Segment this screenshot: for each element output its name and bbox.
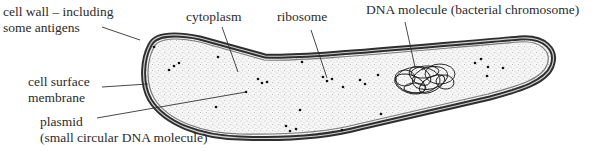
dna-label: DNA molecule (bacterial chromosome) bbox=[366, 2, 579, 18]
cell-surface-membrane-label: cell surface membrane bbox=[28, 74, 90, 106]
plasmid-label-line2: (small circular DNA molecule) bbox=[40, 130, 208, 146]
membrane-leader bbox=[102, 84, 148, 87]
cytoplasm-label: cytoplasm bbox=[186, 9, 242, 25]
ribosome-label: ribosome bbox=[277, 9, 327, 25]
plasmid-label: plasmid (small circular DNA molecule) bbox=[40, 114, 208, 146]
membrane-label-line2: membrane bbox=[28, 90, 90, 106]
cell-wall-label-line2: some antigens bbox=[3, 20, 114, 36]
plasmid-label-line1: plasmid bbox=[40, 114, 208, 130]
cell-wall-label: cell wall – including some antigens bbox=[3, 4, 114, 36]
cell-wall-label-line1: cell wall – including bbox=[3, 4, 114, 20]
membrane-label-line1: cell surface bbox=[28, 74, 90, 90]
